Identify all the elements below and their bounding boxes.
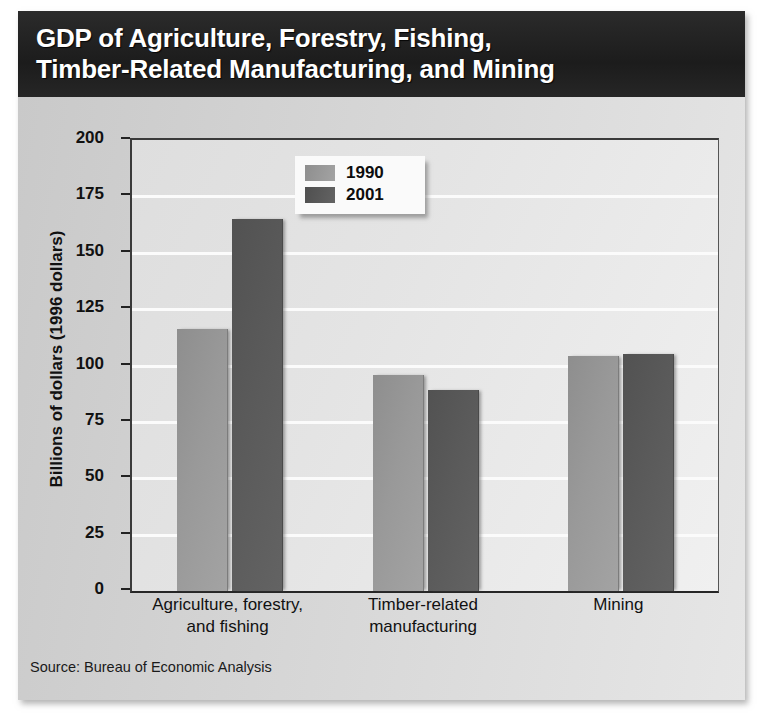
y-axis-tick [121,137,130,139]
y-axis-label: 75 [34,411,104,428]
y-axis-tick [121,363,130,365]
y-axis-label: 100 [34,355,104,372]
y-axis-label: 50 [34,467,104,484]
legend-item-1990: 1990 [305,162,425,184]
legend-swatch-2001 [305,187,335,203]
bar-1990-group-3 [568,356,619,591]
source-note: Source: Bureau of Economic Analysis [30,659,272,675]
y-axis-label: 150 [34,242,104,259]
y-axis-label: 200 [34,129,104,146]
y-axis-tick [121,193,130,195]
y-axis-tick [121,532,130,534]
legend-label-2001: 2001 [346,185,384,205]
bar-2001-group-2 [428,390,479,591]
y-axis-tick [121,419,130,421]
y-axis-label: 125 [34,298,104,315]
y-axis-label: 0 [34,580,104,597]
bar-1990-group-2 [373,375,424,591]
gridline [132,195,718,198]
bar-2001-group-1 [232,219,283,591]
y-axis-tick [121,306,130,308]
y-axis-tick [121,588,130,590]
y-axis-tick [121,475,130,477]
chart-card: GDP of Agriculture, Forestry, Fishing, T… [18,11,745,700]
bar-1990-group-1 [177,329,228,591]
y-axis-label: 25 [34,524,104,541]
x-axis-label: Agriculture, forestry, and fishing [130,594,325,638]
gridline [132,252,718,255]
chart-title: GDP of Agriculture, Forestry, Fishing, T… [36,23,726,85]
bar-2001-group-3 [623,354,674,591]
chart-body: Billions of dollars (1996 dollars) 1990 … [18,97,745,700]
x-axis-label: Timber-related manufacturing [325,594,520,638]
y-axis-label: 175 [34,185,104,202]
legend-label-1990: 1990 [346,163,384,183]
legend-swatch-1990 [305,165,335,181]
chart-legend: 1990 2001 [295,156,425,214]
gridline [132,308,718,311]
x-axis-label: Mining [521,594,716,616]
y-axis-tick [121,250,130,252]
legend-item-2001: 2001 [305,184,425,206]
title-band: GDP of Agriculture, Forestry, Fishing, T… [18,11,745,97]
